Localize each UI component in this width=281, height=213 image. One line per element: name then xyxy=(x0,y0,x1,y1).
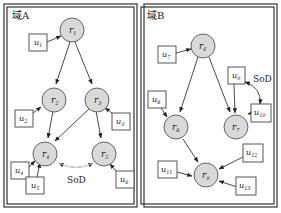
edge-u8-r8 xyxy=(161,108,167,117)
user-u11: u11 xyxy=(158,161,177,178)
user-u8: u8 xyxy=(148,91,166,108)
edge-u11-r9 xyxy=(177,172,192,176)
edge-r3-r5 xyxy=(96,111,101,138)
user-u4: u4 xyxy=(11,162,29,179)
edge-u2-r2 xyxy=(33,107,41,113)
user-u6: u6 xyxy=(116,171,134,188)
role-r5: r5 xyxy=(92,142,116,166)
sod-label-b: SoD xyxy=(253,74,272,84)
edge-u13-r9 xyxy=(219,181,237,187)
edge-r3-r4 xyxy=(55,108,90,141)
domain-b-title: 域B xyxy=(147,9,164,21)
role-r8: r8 xyxy=(164,115,188,139)
edge-r8-r9 xyxy=(183,139,198,162)
user-u9: u9 xyxy=(228,67,245,84)
edge-r6-r8 xyxy=(180,57,198,112)
user-u3: u3 xyxy=(112,113,130,130)
user-u12: u12 xyxy=(243,144,263,162)
edge-u9-r7 xyxy=(234,84,235,113)
domain-a-title: 域A xyxy=(12,9,30,21)
edge-u6-r5 xyxy=(110,164,116,171)
edge-r6-r7 xyxy=(209,57,230,112)
edge-u12-r9 xyxy=(219,157,243,169)
user-u7: u7 xyxy=(158,46,176,63)
role-r4: r4 xyxy=(33,142,57,166)
role-r9: r9 xyxy=(194,163,218,187)
user-u2: u2 xyxy=(15,110,33,127)
user-u10: u10 xyxy=(251,104,271,122)
user-u1: u1 xyxy=(29,34,47,51)
edge-r2-r4 xyxy=(48,111,53,138)
role-r1: r1 xyxy=(60,18,84,42)
role-r6: r6 xyxy=(191,34,215,58)
sod-label-a: SoD xyxy=(67,175,86,185)
edge-u3-r3 xyxy=(105,108,112,113)
user-u5: u5 xyxy=(26,177,44,194)
edge-r1-r3 xyxy=(75,42,92,84)
rbac-domain-diagram: 域A 域B r1 r2 r3 r4 r5 u1 xyxy=(0,0,281,213)
edge-r1-r2 xyxy=(56,42,70,84)
edge-u7-r6 xyxy=(176,49,191,53)
role-r2: r2 xyxy=(42,88,66,112)
sod-edge-u9-u10 xyxy=(245,82,260,104)
user-u13: u13 xyxy=(236,177,256,195)
edge-u1-r1 xyxy=(47,36,61,42)
role-r7: r7 xyxy=(224,115,248,139)
role-r3: r3 xyxy=(85,88,109,112)
